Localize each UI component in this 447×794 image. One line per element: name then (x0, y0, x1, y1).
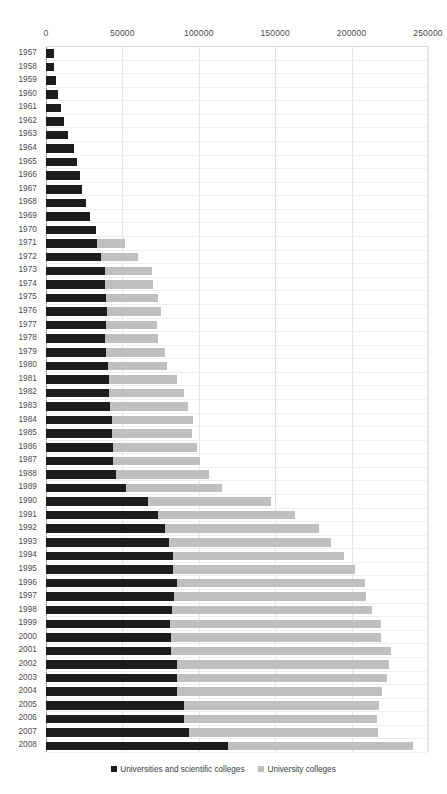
legend-swatch-icon (111, 766, 117, 772)
bar-segment-university-colleges (184, 701, 380, 710)
y-tick-label-1998: 1998 (18, 603, 37, 617)
y-axis-year-labels: 1957195819591960196119621963196419651966… (0, 46, 42, 752)
stacked-bar (46, 402, 188, 411)
bar-segment-universities (46, 239, 97, 248)
stacked-bar (46, 158, 77, 167)
bar-segment-universities (46, 620, 170, 629)
bar-segment-university-colleges (171, 633, 380, 642)
bar-segment-university-colleges (173, 552, 344, 561)
stacked-bar (46, 104, 61, 113)
bar-segment-universities (46, 321, 106, 330)
y-tick-label-1961: 1961 (18, 100, 37, 114)
bar-row (46, 590, 427, 604)
bar-row (46, 536, 427, 550)
bar-segment-universities (46, 104, 61, 113)
stacked-bar (46, 416, 193, 425)
bar-segment-universities (46, 674, 177, 683)
bar-segment-university-colleges (171, 647, 391, 656)
bar-segment-universities (46, 171, 80, 180)
stacked-bar (46, 592, 366, 601)
stacked-bar (46, 267, 152, 276)
stacked-bar (46, 511, 295, 520)
stacked-bar (46, 171, 80, 180)
bar-segment-universities (46, 389, 109, 398)
x-tick-label-250000: 250000 (413, 28, 443, 38)
bar-row (46, 183, 427, 197)
bar-segment-university-colleges (110, 402, 188, 411)
bar-segment-university-colleges (113, 457, 199, 466)
stacked-bar (46, 538, 331, 547)
y-tick-label-2002: 2002 (18, 657, 37, 671)
stacked-bar (46, 660, 389, 669)
bar-segment-universities (46, 511, 158, 520)
stacked-bar (46, 321, 157, 330)
bar-row (46, 631, 427, 645)
y-tick-label-1985: 1985 (18, 426, 37, 440)
bar-segment-university-colleges (107, 307, 160, 316)
bar-row (46, 468, 427, 482)
y-tick-label-1962: 1962 (18, 114, 37, 128)
stacked-bar (46, 144, 74, 153)
bar-row (46, 142, 427, 156)
y-tick-label-1991: 1991 (18, 508, 37, 522)
bar-segment-university-colleges (108, 362, 168, 371)
bar-row (46, 509, 427, 523)
stacked-bar (46, 429, 192, 438)
stacked-bar (46, 497, 271, 506)
y-tick-label-1973: 1973 (18, 263, 37, 277)
y-tick-label-2004: 2004 (18, 684, 37, 698)
bar-segment-universities (46, 524, 165, 533)
bar-segment-universities (46, 90, 58, 99)
bar-segment-university-colleges (112, 416, 194, 425)
stacked-bar (46, 226, 96, 235)
bar-row (46, 726, 427, 740)
y-tick-label-1976: 1976 (18, 304, 37, 318)
y-tick-label-1979: 1979 (18, 345, 37, 359)
bar-segment-universities (46, 538, 169, 547)
bar-segment-university-colleges (228, 742, 413, 751)
stacked-bar (46, 633, 381, 642)
stacked-bar (46, 131, 68, 140)
bar-segment-universities (46, 307, 107, 316)
x-axis-tick-labels: 050000100000150000200000250000 (0, 28, 447, 44)
bar-row (46, 101, 427, 115)
legend-label: Universities and scientific colleges (120, 765, 244, 774)
y-tick-label-1965: 1965 (18, 155, 37, 169)
plot-area (46, 46, 428, 752)
bar-segment-university-colleges (126, 484, 222, 493)
bar-row (46, 156, 427, 170)
gridline-250000 (428, 47, 429, 752)
chart-legend: Universities and scientific collegesUniv… (0, 761, 447, 777)
bar-segment-universities (46, 687, 177, 696)
y-tick-label-1971: 1971 (18, 236, 37, 250)
bar-segment-university-colleges (177, 579, 365, 588)
bar-rows (46, 47, 427, 752)
stacked-bar (46, 90, 58, 99)
bar-row (46, 400, 427, 414)
bar-row (46, 617, 427, 631)
bar-segment-universities (46, 185, 82, 194)
bar-segment-universities (46, 728, 189, 737)
bar-segment-universities (46, 63, 54, 72)
bar-segment-university-colleges (169, 538, 331, 547)
stacked-bar (46, 239, 125, 248)
bar-row (46, 481, 427, 495)
stacked-bar (46, 484, 222, 493)
y-tick-label-1974: 1974 (18, 277, 37, 291)
bar-segment-university-colleges (189, 728, 378, 737)
x-tick-label-150000: 150000 (260, 28, 290, 38)
bar-row (46, 169, 427, 183)
stacked-bar (46, 389, 184, 398)
bar-row (46, 47, 427, 61)
bar-row (46, 441, 427, 455)
bar-segment-university-colleges (177, 687, 382, 696)
bar-segment-university-colleges (112, 429, 192, 438)
bar-segment-university-colleges (97, 239, 125, 248)
y-tick-label-1959: 1959 (18, 73, 37, 87)
bar-segment-university-colleges (106, 321, 156, 330)
bar-row (46, 291, 427, 305)
bar-segment-university-colleges (174, 592, 367, 601)
stacked-bar (46, 742, 413, 751)
bar-row (46, 278, 427, 292)
y-tick-label-1987: 1987 (18, 453, 37, 467)
